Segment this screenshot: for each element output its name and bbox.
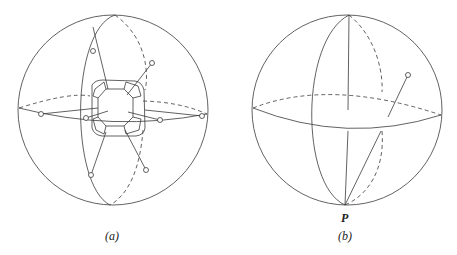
node-right-outer bbox=[200, 114, 205, 119]
sphere-b-equator-front bbox=[253, 108, 441, 128]
diagram-canvas bbox=[0, 0, 457, 255]
node-top-left bbox=[91, 49, 96, 54]
sphere-a-equator-back-right bbox=[143, 101, 207, 114]
polyhedron-core bbox=[92, 80, 145, 136]
sphere-a-meridian-back-bottom bbox=[110, 130, 143, 205]
sphere-b-meridian-front bbox=[312, 15, 349, 205]
core-outer-outline bbox=[92, 80, 145, 136]
stem-right-outer bbox=[145, 110, 202, 116]
sphere-b-outline bbox=[252, 15, 442, 205]
sphere-b-equator-back bbox=[253, 95, 441, 115]
sphere-b-meridian-back-top bbox=[349, 15, 382, 92]
sphere-a-meridian-back-top bbox=[115, 15, 147, 90]
node-bottom-right bbox=[144, 168, 149, 173]
stem-b bbox=[388, 77, 407, 117]
stem-bottom-left bbox=[91, 132, 106, 175]
sphere-a-outline bbox=[18, 15, 208, 205]
chord-from-p bbox=[345, 131, 381, 205]
axis-lower bbox=[345, 131, 348, 205]
panel-a bbox=[18, 15, 208, 205]
stem-left-inner bbox=[86, 111, 108, 118]
node-right-inner bbox=[158, 118, 163, 123]
node-left-inner bbox=[84, 116, 89, 121]
sphere-a-equator-back-left bbox=[19, 95, 90, 108]
stem-top-left bbox=[93, 27, 108, 89]
label-panel-a: (a) bbox=[105, 229, 119, 244]
label-point-p: P bbox=[341, 211, 348, 226]
sphere-a-equator-front bbox=[19, 108, 207, 122]
node-b bbox=[406, 73, 411, 78]
node-top-right bbox=[150, 61, 155, 66]
label-panel-b: (b) bbox=[338, 229, 352, 244]
panel-b bbox=[252, 15, 442, 205]
node-bottom-left bbox=[89, 173, 94, 178]
axis-upper bbox=[348, 15, 349, 110]
node-left-outer bbox=[39, 112, 44, 117]
stem-left-outer bbox=[41, 108, 98, 114]
